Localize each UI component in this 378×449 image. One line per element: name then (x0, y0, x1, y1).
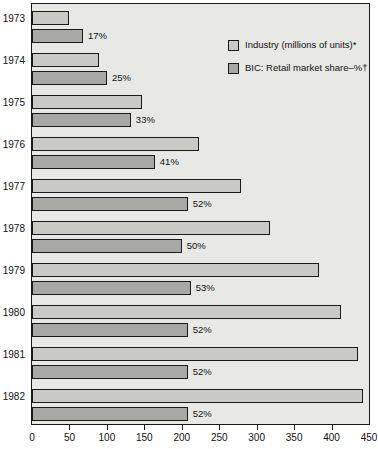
x-axis-tick-label: 50 (64, 433, 75, 443)
bar-share (32, 197, 188, 211)
legend-item-industry: Industry (millions of units)* (228, 40, 378, 51)
legend-swatch-industry (228, 40, 239, 51)
x-axis-tick (69, 425, 70, 430)
bar-group: 41% (32, 130, 369, 172)
bar-value-label: 25% (112, 73, 131, 83)
bar-chart: 1973197419751976197719781979198019811982… (0, 0, 378, 449)
y-axis-label-1976: 1976 (3, 140, 25, 150)
bar-value-label: 52% (193, 325, 212, 335)
bar-industry (32, 179, 241, 193)
bar-share (32, 407, 188, 421)
bar-share (32, 281, 191, 295)
bar-industry (32, 263, 319, 277)
bar-share (32, 365, 188, 379)
bar-share (32, 113, 131, 127)
bar-industry (32, 53, 99, 67)
bar-share (32, 239, 182, 253)
x-axis-tick (294, 425, 295, 430)
y-axis-label-1978: 1978 (3, 224, 25, 234)
y-axis-label-1974: 1974 (3, 56, 25, 66)
x-axis-tick (257, 425, 258, 430)
bar-value-label: 50% (187, 241, 206, 251)
y-axis-label-1982: 1982 (3, 392, 25, 402)
bar-value-label: 53% (196, 283, 215, 293)
x-axis-tick-label: 400 (323, 433, 340, 443)
bar-industry (32, 389, 363, 403)
y-axis-category-labels: 1973197419751976197719781979198019811982 (0, 0, 28, 449)
x-axis-tick-label: 150 (136, 433, 153, 443)
x-axis-tick (107, 425, 108, 430)
x-axis-tick-label: 300 (248, 433, 265, 443)
bar-value-label: 52% (193, 409, 212, 419)
bar-group: 52% (32, 172, 369, 214)
y-axis-label-1979: 1979 (3, 266, 25, 276)
bar-industry (32, 137, 199, 151)
x-axis-tick (219, 425, 220, 430)
y-axis-label-1973: 1973 (3, 14, 25, 24)
y-axis-label-1981: 1981 (3, 350, 25, 360)
bar-group: 33% (32, 88, 369, 130)
bar-group: 50% (32, 214, 369, 256)
x-axis-tick (182, 425, 183, 430)
x-axis-tick-label: 200 (173, 433, 190, 443)
chart-legend: Industry (millions of units)* BIC: Retai… (228, 40, 378, 86)
bar-share (32, 323, 188, 337)
x-axis-tick-label: 250 (211, 433, 228, 443)
bar-industry (32, 95, 142, 109)
x-axis-tick (332, 425, 333, 430)
x-axis: 050100150200250300350400450 (31, 425, 370, 449)
bar-value-label: 52% (193, 367, 212, 377)
bar-industry (32, 305, 341, 319)
x-axis-tick-label: 0 (29, 433, 35, 443)
bar-industry (32, 347, 358, 361)
bar-group: 52% (32, 340, 369, 382)
y-axis-label-1977: 1977 (3, 182, 25, 192)
x-axis-tick-label: 450 (361, 433, 378, 443)
x-axis-tick (144, 425, 145, 430)
x-axis-tick-label: 100 (99, 433, 116, 443)
bar-group: 52% (32, 298, 369, 340)
legend-item-share: BIC: Retail market share–%† (228, 63, 378, 74)
bar-group: 53% (32, 256, 369, 298)
bar-share (32, 71, 107, 85)
y-axis-label-1980: 1980 (3, 308, 25, 318)
bar-share (32, 155, 155, 169)
legend-swatch-share (228, 63, 239, 74)
bar-share (32, 29, 83, 43)
bar-value-label: 52% (193, 199, 212, 209)
y-axis-label-1975: 1975 (3, 98, 25, 108)
x-axis-tick-label: 350 (286, 433, 303, 443)
bar-value-label: 33% (136, 115, 155, 125)
bar-industry (32, 11, 69, 25)
bar-value-label: 17% (88, 31, 107, 41)
bar-group: 52% (32, 382, 369, 424)
legend-label-share: BIC: Retail market share–%† (245, 63, 368, 73)
bar-industry (32, 221, 270, 235)
bar-value-label: 41% (160, 157, 179, 167)
legend-label-industry: Industry (millions of units)* (245, 40, 356, 50)
